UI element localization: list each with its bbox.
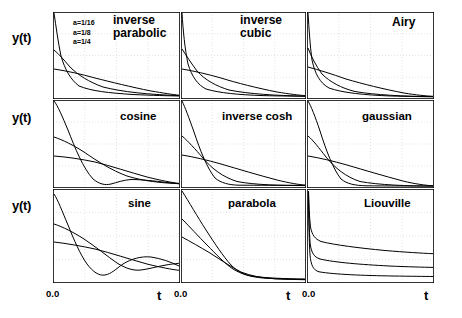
panel-title-airy: Airy: [392, 16, 442, 29]
panel-title-parabola: parabola: [228, 197, 308, 210]
y-axis-label-row-2: y(t): [12, 198, 31, 213]
y-axis-label-row-1: y(t): [12, 110, 31, 125]
legend-entry-0: a=1/16: [73, 18, 95, 28]
legend-entry-1: a=1/8: [73, 28, 95, 38]
x-tick-col-1: 0.0: [174, 288, 187, 299]
legend-entry-2: a=1/4: [73, 37, 95, 47]
x-axis-label-col-2: t: [424, 288, 428, 303]
y-axis-label-row-0: y(t): [12, 30, 31, 45]
panel-title-inverse-cubic: inverse cubic: [240, 14, 310, 39]
panel-title-sine: sine: [128, 197, 188, 210]
panel-title-inverse-parabolic: inverse parabolic: [113, 14, 183, 39]
panel-title-inverse-cosh: inverse cosh: [222, 110, 307, 123]
panel-title-cosine: cosine: [120, 110, 190, 123]
x-tick-col-2: 0.0: [302, 288, 315, 299]
panel-title-liouville: Liouville: [364, 197, 444, 210]
legend-inverse-parabolic: a=1/16 a=1/8 a=1/4: [73, 18, 95, 47]
panel-title-gaussian: gaussian: [362, 110, 432, 123]
x-axis-label-col-0: t: [157, 288, 161, 303]
x-tick-col-0: 0.0: [46, 288, 59, 299]
figure-panel-grid: y(t) y(t) y(t) 0.0 0.0 0.0 t t t i: [0, 0, 462, 318]
x-axis-label-col-1: t: [286, 288, 290, 303]
